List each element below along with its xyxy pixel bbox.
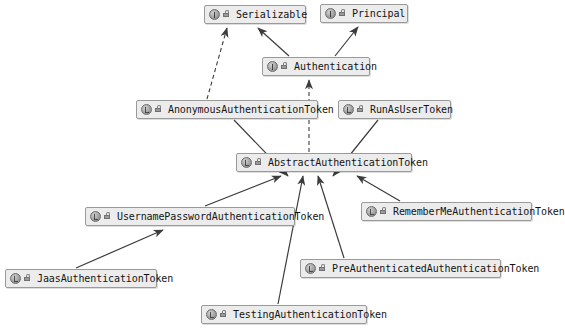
class-icon — [366, 206, 377, 217]
class-icon — [90, 211, 101, 222]
class-node-authentication[interactable]: Authentication — [262, 57, 370, 76]
class-icon — [305, 263, 316, 274]
class-node-principal[interactable]: Principal — [320, 4, 408, 23]
class-icon — [343, 104, 354, 115]
visibility-public-icon — [357, 104, 365, 115]
class-node-label: AbstractAuthenticationToken — [268, 157, 428, 168]
class-node-label: PreAuthenticatedAuthenticationToken — [332, 263, 539, 274]
visibility-public-icon — [319, 263, 327, 274]
class-node-abstract[interactable]: AbstractAuthenticationToken — [236, 153, 412, 172]
class-node-label: Principal — [352, 8, 405, 19]
class-node-label: Authentication — [294, 61, 377, 72]
class-node-jaas[interactable]: JaasAuthenticationToken — [5, 269, 157, 288]
visibility-public-icon — [104, 211, 112, 222]
class-node-preauth[interactable]: PreAuthenticatedAuthenticationToken — [300, 259, 501, 278]
visibility-public-icon — [339, 8, 347, 19]
class-node-serializable[interactable]: Serializable — [204, 5, 306, 24]
class-node-rememberme[interactable]: RememberMeAuthenticationToken — [361, 202, 532, 221]
edge-authentication-to-serializable — [258, 28, 289, 56]
interface-icon — [267, 61, 278, 72]
visibility-public-icon — [380, 206, 388, 217]
class-icon — [241, 157, 252, 168]
class-icon — [141, 104, 152, 115]
visibility-public-icon — [281, 61, 289, 72]
class-icon — [206, 309, 217, 320]
interface-icon — [325, 8, 336, 19]
visibility-public-icon — [223, 9, 231, 20]
edge-usernamepassword-to-abstract — [205, 176, 281, 206]
class-node-label: UsernamePasswordAuthenticationToken — [117, 211, 324, 222]
class-node-runasuser[interactable]: RunAsUserToken — [338, 100, 451, 119]
class-node-label: TestingAuthenticationToken — [233, 309, 387, 320]
visibility-public-icon — [155, 104, 163, 115]
edge-testing-to-abstract — [278, 176, 303, 304]
edge-anonymous-to-serializable — [207, 28, 227, 99]
class-node-label: AnonymousAuthenticationToken — [168, 104, 334, 115]
class-node-label: Serializable — [236, 9, 307, 20]
edge-rememberme-to-abstract — [357, 176, 400, 201]
visibility-public-icon — [220, 309, 228, 320]
visibility-public-icon — [255, 157, 263, 168]
class-node-testing[interactable]: TestingAuthenticationToken — [201, 305, 367, 324]
class-node-label: JaasAuthenticationToken — [37, 273, 173, 284]
class-node-label: RunAsUserToken — [370, 104, 453, 115]
class-node-label: RememberMeAuthenticationToken — [393, 206, 565, 217]
class-node-usernamepassword[interactable]: UsernamePasswordAuthenticationToken — [85, 207, 295, 226]
visibility-public-icon — [24, 273, 32, 284]
class-node-anonymous[interactable]: AnonymousAuthenticationToken — [136, 100, 318, 119]
edge-authentication-to-principal — [335, 27, 358, 56]
interface-icon — [209, 9, 220, 20]
edge-jaas-to-usernamepassword — [76, 230, 163, 268]
class-icon — [10, 273, 21, 284]
